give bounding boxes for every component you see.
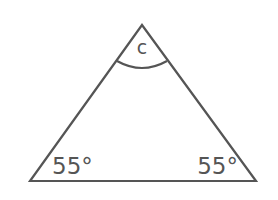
- apex-angle-label: c: [137, 36, 147, 58]
- apex-angle-arc: [117, 61, 167, 68]
- bottom-right-angle-label: 55°: [197, 153, 238, 179]
- triangle-diagram: c 55° 55°: [0, 0, 278, 200]
- bottom-left-angle-label: 55°: [52, 153, 93, 179]
